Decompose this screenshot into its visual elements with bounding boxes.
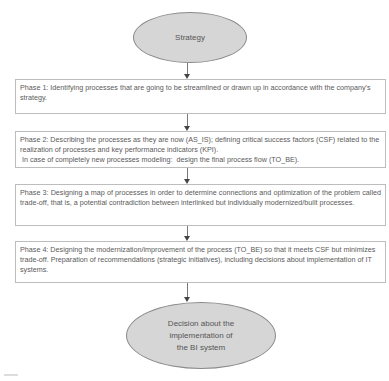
phase-4-box: Phase 4: Designing the modernization/imp… [15,241,386,283]
phase-2-box: Phase 2: Describing the processes as the… [15,131,386,168]
phase-1-text: Phase 1: Identifying processes that are … [20,83,381,103]
phase-3-text: Phase 3: Designing a map of processes in… [20,188,381,208]
phase-1-box: Phase 1: Identifying processes that are … [15,79,386,114]
phase-2-text: Phase 2: Describing the processes as the… [20,135,381,155]
phase-4-text: Phase 4: Designing the modernization/imp… [20,245,381,275]
end-node-label: Decision about the implementation of the… [167,318,235,354]
phase-2-text-extra: In case of completely new processes mode… [20,155,381,165]
end-node-decision: Decision about the implementation of the… [126,302,276,369]
start-node-strategy: Strategy [133,12,247,63]
phase-3-box: Phase 3: Designing a map of processes in… [15,184,386,226]
decorative-mark [4,374,18,376]
arrowhead-icon [184,297,190,302]
start-node-label: Strategy [175,32,205,44]
connector-line [187,283,188,298]
